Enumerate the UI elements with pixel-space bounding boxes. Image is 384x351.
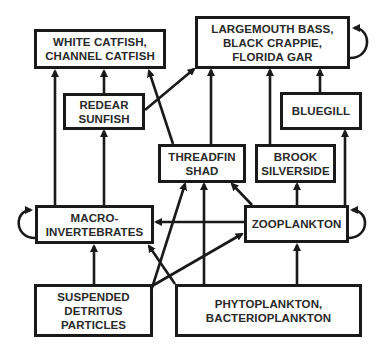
arrow-redear-to-largemouth	[145, 69, 194, 110]
self-loop-zooplankton	[348, 210, 365, 238]
node-white-catfish: WHITE CATFISH, CHANNEL CATFISH	[34, 29, 166, 69]
node-bluegill: BLUEGILL	[280, 92, 362, 130]
self-loop-largemouth	[350, 28, 367, 58]
node-suspended-detritus: SUSPENDED DETRITUS PARTICLES	[34, 284, 153, 337]
self-loop-macro	[19, 210, 35, 238]
arrow-threadfin-to-catfish	[149, 71, 173, 144]
node-zooplankton: ZOOPLANKTON	[244, 205, 349, 243]
node-largemouth-bass: LARGEMOUTH BASS, BLACK CRAPPIE, FLORIDA …	[195, 16, 350, 69]
node-redear-sunfish: REDEAR SUNFISH	[63, 93, 145, 130]
node-macroinvertebrates: MACRO- INVERTEBRATES	[35, 205, 154, 244]
arrow-phyto-to-macro	[149, 246, 175, 284]
node-phytoplankton: PHYTOPLANKTON, BACTERIOPLANKTON	[175, 284, 362, 337]
arrow-zoo-to-threadfin	[232, 184, 252, 205]
node-threadfin-shad: THREADFIN SHAD	[158, 144, 246, 183]
node-brook-silverside: BROOK SILVERSIDE	[255, 144, 336, 183]
